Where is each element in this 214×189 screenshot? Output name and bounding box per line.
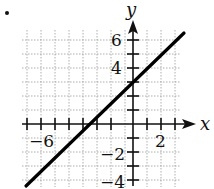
y-axis (127, 28, 139, 186)
bullet-marker-icon (5, 11, 9, 15)
tick-label-y-neg2: −2 (100, 144, 125, 164)
tick-label-y-neg4: −4 (100, 172, 125, 189)
tick-label-x-neg6: −6 (29, 131, 54, 151)
x-axis (22, 118, 188, 130)
coordinate-plane: y x 6 4 −2 −4 −6 2 (0, 0, 214, 189)
tick-label-x-2: 2 (155, 131, 166, 151)
tick-label-y-6: 6 (111, 30, 122, 50)
tick-label-y-4: 4 (111, 58, 122, 78)
x-axis-label: x (200, 113, 210, 134)
y-axis-label: y (125, 0, 137, 20)
